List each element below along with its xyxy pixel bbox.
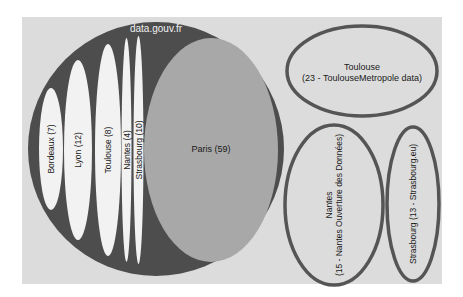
toulouse-set: Toulouse (8) [95, 44, 121, 256]
toulouse-label: Toulouse (8) [103, 126, 113, 173]
strasbourg-eu-label: Strasbourg (13 - Strasbourg.eu) [408, 144, 418, 264]
strasbourg-eu-set: Strasbourg (13 - Strasbourg.eu) [387, 127, 439, 281]
paris-label: Paris (59) [191, 144, 230, 154]
bordeaux-set: Bordeaux (7) [39, 88, 63, 210]
strasbourg-set: Strasbourg (10) [134, 36, 144, 264]
toulouse-metropole-label-line2: (23 - ToulouseMetropole data) [302, 73, 422, 83]
bordeaux-label: Bordeaux (7) [46, 124, 56, 173]
lyon-label: Lyon (12) [73, 132, 83, 168]
nantes-label: Nantes (4) [122, 130, 132, 170]
lyon-set: Lyon (12) [64, 60, 92, 240]
nantes-ouverture-label-line1: Nantes [324, 192, 334, 219]
toulouse-metropole-label-line1: Toulouse [344, 62, 380, 72]
nantes-ouverture-label-line2: (15 - Nantes Ouverture des Données) [334, 134, 344, 276]
toulouse-metropole-set: Toulouse (23 - ToulouseMetropole data) [287, 26, 437, 116]
nantes-set: Nantes (4) [122, 38, 132, 262]
data-gouv-fr-label: data.gouv.fr [130, 23, 183, 34]
euler-diagram: data.gouv.fr Paris (59) Bordeaux (7) Lyo… [0, 0, 463, 297]
paris-set: Paris (59) [144, 38, 278, 262]
strasbourg-label: Strasbourg (10) [134, 120, 144, 179]
nantes-ouverture-set: Nantes (15 - Nantes Ouverture des Donnée… [285, 125, 383, 285]
